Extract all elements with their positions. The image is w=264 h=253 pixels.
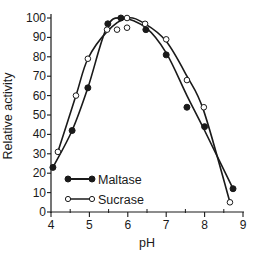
maltase-point (184, 104, 190, 110)
sucrase-point (124, 25, 130, 31)
y-axis-title: Relative activity (1, 72, 15, 160)
maltase-curve (53, 18, 233, 189)
sucrase-point (142, 21, 148, 27)
legend: MaltaseSucrase (65, 173, 144, 207)
maltase-point (163, 52, 169, 58)
x-tick-label: 8 (201, 218, 208, 232)
filled-circle-marker-icon (65, 176, 71, 182)
y-tick-label: 0 (39, 205, 46, 219)
sucrase-point (104, 27, 110, 33)
y-tick-label: 10 (33, 186, 47, 200)
maltase-point (143, 27, 149, 33)
sucrase-point (55, 149, 61, 155)
sucrase-point (73, 93, 79, 99)
maltase-point (69, 128, 75, 134)
sucrase-point (201, 104, 207, 110)
sucrase-point (227, 200, 233, 206)
x-tick-label: 7 (163, 218, 170, 232)
fitted-curves (53, 18, 233, 203)
x-tick-label: 6 (124, 218, 131, 232)
data-points (50, 15, 236, 205)
legend-label: Sucrase (98, 193, 144, 207)
open-circle-marker-icon (65, 196, 70, 201)
maltase-point (105, 21, 111, 27)
maltase-point (118, 15, 124, 21)
y-tick-label: 50 (33, 108, 47, 122)
sucrase-point (85, 56, 91, 62)
sucrase-point (184, 77, 190, 83)
maltase-point (50, 164, 56, 170)
maltase-point (85, 85, 91, 91)
sucrase-point (114, 27, 120, 33)
x-axis: 456789 (48, 209, 247, 232)
open-circle-marker-icon (89, 196, 94, 201)
y-tick-label: 100 (26, 11, 46, 25)
sucrase-point (163, 37, 169, 43)
y-tick-label: 90 (33, 30, 47, 44)
y-axis: 0102030405060708090100 (26, 11, 51, 219)
x-axis-title: pH (139, 236, 155, 250)
y-tick-label: 80 (33, 50, 47, 64)
filled-circle-marker-icon (89, 176, 95, 182)
maltase-point (202, 124, 208, 130)
legend-item-sucrase: Sucrase (65, 193, 144, 207)
legend-label: Maltase (98, 173, 142, 187)
x-tick-label: 5 (86, 218, 93, 232)
ph-activity-chart: 0102030405060708090100 456789 Relative a… (0, 0, 264, 253)
y-tick-label: 70 (33, 69, 47, 83)
maltase-point (230, 186, 236, 192)
y-tick-label: 20 (33, 166, 47, 180)
legend-item-maltase: Maltase (65, 173, 142, 187)
x-tick-label: 4 (48, 218, 55, 232)
sucrase-point (124, 15, 130, 21)
y-tick-label: 30 (33, 147, 47, 161)
y-tick-label: 40 (33, 127, 47, 141)
x-tick-label: 9 (240, 218, 247, 232)
y-tick-label: 60 (33, 89, 47, 103)
